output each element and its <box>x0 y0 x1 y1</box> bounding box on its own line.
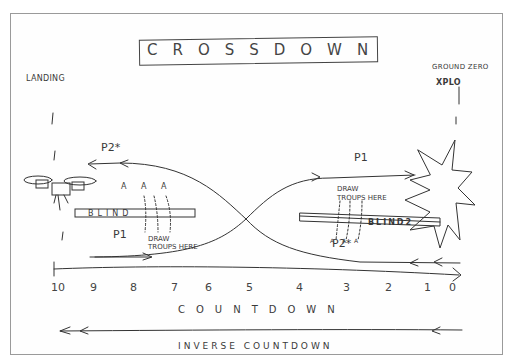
explosion-icon <box>405 140 475 248</box>
p1-upper-path <box>246 175 415 219</box>
sketch-drawing <box>0 0 513 364</box>
drone-icon <box>24 176 96 210</box>
p2-upper-path <box>90 163 246 219</box>
inverse-countdown-arrow <box>60 330 462 331</box>
countdown-axis <box>54 267 459 275</box>
blind1-box <box>75 209 195 217</box>
landing-marker <box>52 113 53 124</box>
